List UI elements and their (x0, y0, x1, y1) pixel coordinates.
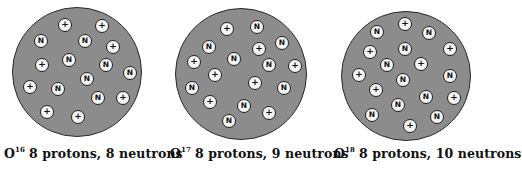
neutron-icon: N (99, 58, 113, 72)
element-symbol: O (4, 146, 15, 161)
neutron-icon: N (91, 91, 105, 105)
neutron-icon: N (262, 58, 276, 72)
neutron-icon: N (237, 99, 251, 113)
proton-icon: + (220, 22, 234, 36)
mass-number: 17 (181, 145, 191, 154)
proton-icon: + (443, 42, 457, 56)
neutron-icon: N (365, 108, 379, 122)
proton-icon: + (352, 68, 366, 82)
isotope-description: 8 protons, 10 neutrons (359, 146, 522, 161)
proton-icon: + (95, 19, 109, 33)
proton-icon: + (203, 95, 217, 109)
proton-icon: + (398, 17, 412, 31)
neutron-icon: N (380, 58, 394, 72)
proton-icon: + (262, 106, 276, 120)
proton-icon: + (414, 57, 428, 71)
proton-icon: + (35, 58, 49, 72)
neutron-icon: N (419, 90, 433, 104)
element-symbol: O (334, 146, 345, 161)
isotope-description: 8 protons, 9 neutrons (195, 146, 349, 161)
neutron-icon: N (202, 40, 216, 54)
proton-icon: + (447, 91, 461, 105)
proton-icon: + (363, 45, 377, 59)
proton-icon: + (369, 83, 383, 97)
proton-icon: + (288, 59, 302, 73)
neutron-icon: N (222, 114, 236, 128)
proton-icon: + (208, 68, 222, 82)
neutron-icon: N (398, 42, 412, 56)
neutron-icon: N (250, 20, 264, 34)
mass-number: 16 (15, 145, 25, 154)
proton-icon: + (252, 42, 266, 56)
proton-icon: + (403, 119, 417, 133)
proton-icon: + (106, 40, 120, 54)
neutron-icon: N (370, 25, 384, 39)
neutron-icon: N (275, 36, 289, 50)
mass-number: 18 (345, 145, 355, 154)
proton-icon: + (116, 91, 130, 105)
neutron-icon: N (34, 34, 48, 48)
label-o17: O178 protons, 9 neutrons (170, 145, 349, 161)
neutron-icon: N (51, 82, 65, 96)
proton-icon: + (58, 18, 72, 32)
label-o18: O188 protons, 10 neutrons (334, 145, 522, 161)
proton-icon: + (71, 110, 85, 124)
proton-icon: + (23, 80, 37, 94)
neutron-icon: N (123, 66, 137, 80)
neutron-icon: N (430, 110, 444, 124)
proton-icon: + (248, 76, 262, 90)
neutron-icon: N (391, 98, 405, 112)
neutron-icon: N (62, 53, 76, 67)
isotope-description: 8 protons, 8 neutrons (29, 146, 183, 161)
neutron-icon: N (78, 34, 92, 48)
neutron-icon: N (443, 69, 457, 83)
proton-icon: + (187, 55, 201, 69)
label-o16: O168 protons, 8 neutrons (4, 145, 183, 161)
neutron-icon: N (422, 26, 436, 40)
neutron-icon: N (227, 52, 241, 66)
proton-icon: + (40, 105, 54, 119)
neutron-icon: N (185, 81, 199, 95)
element-symbol: O (170, 146, 181, 161)
neutron-icon: N (80, 72, 94, 86)
neutron-icon: N (396, 73, 410, 87)
nucleus-o17 (175, 8, 307, 140)
neutron-icon: N (277, 81, 291, 95)
